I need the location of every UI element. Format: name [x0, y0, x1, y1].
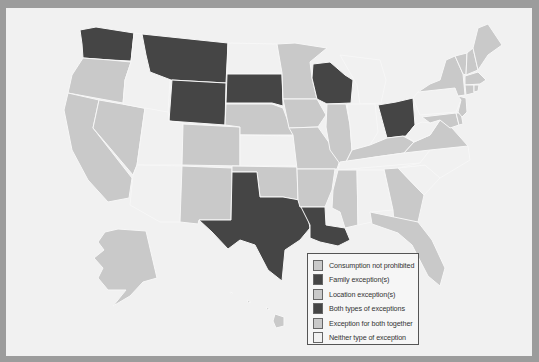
state-hi[interactable] [230, 292, 284, 328]
state-ms[interactable] [332, 170, 358, 228]
legend-item-neither: Neither type of exception [313, 331, 418, 345]
legend-item-family-exceptions: Family exception(s) [313, 273, 418, 287]
legend-swatch [313, 260, 323, 271]
legend-swatch [313, 318, 323, 329]
legend-swatch [313, 289, 323, 300]
state-me[interactable] [473, 24, 502, 70]
state-wy[interactable] [169, 80, 226, 125]
legend-item-both-together: Exception for both together [313, 316, 418, 330]
us-map [0, 0, 539, 362]
state-wi[interactable] [312, 62, 353, 104]
state-ks[interactable] [240, 135, 297, 166]
state-ct[interactable] [465, 85, 474, 95]
legend-label: Both types of exceptions [329, 304, 405, 313]
legend-label: Location exception(s) [329, 290, 395, 299]
state-co[interactable] [182, 124, 240, 166]
legend: Consumption not prohibited Family except… [307, 253, 419, 345]
legend-label: Exception for both together [329, 319, 413, 328]
legend-item-location-exceptions: Location exception(s) [313, 287, 418, 301]
legend-swatch [313, 332, 323, 343]
legend-item-consumption-not-prohibited: Consumption not prohibited [313, 258, 418, 272]
legend-label: Consumption not prohibited [329, 261, 414, 270]
state-ri[interactable] [474, 85, 479, 92]
state-ak[interactable] [94, 229, 157, 306]
state-wa[interactable] [80, 27, 134, 61]
state-ia[interactable] [283, 99, 326, 128]
legend-item-both-types: Both types of exceptions [313, 302, 418, 316]
state-nm[interactable] [180, 166, 232, 224]
legend-label: Neither type of exception [329, 333, 406, 342]
state-az[interactable] [130, 165, 182, 222]
state-ar[interactable] [297, 169, 335, 207]
state-sd[interactable] [226, 74, 283, 106]
legend-swatch [313, 274, 323, 285]
legend-label: Family exception(s) [329, 275, 389, 284]
state-nd[interactable] [227, 43, 282, 74]
legend-swatch [313, 303, 323, 314]
